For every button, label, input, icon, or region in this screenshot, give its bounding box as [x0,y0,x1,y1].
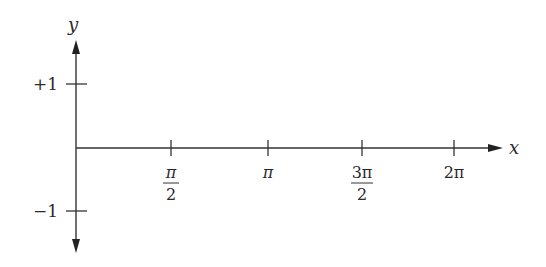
y-axis-down-arrow-icon [72,239,80,253]
axes-svg: y x +1 −1 π 2 π 3π 2 2π [0,0,546,267]
coordinate-diagram: y x +1 −1 π 2 π 3π 2 2π [0,0,546,267]
y-tick-label-plus-one: +1 [33,74,58,94]
x-tick-label-pi-over-2-denominator: 2 [166,185,176,204]
y-axis-up-arrow-icon [72,40,80,54]
y-axis-label: y [67,14,79,35]
x-tick-label-3pi-over-2-denominator: 2 [357,185,367,204]
x-tick-label-2pi: 2π [444,163,465,182]
x-axis-label: x [509,137,519,158]
x-tick-label-3pi-over-2-numerator: 3π [352,163,373,182]
x-tick-label-pi-over-2-numerator: π [165,163,177,182]
y-tick-label-minus-one: −1 [33,201,58,221]
x-axis-right-arrow-icon [488,144,503,152]
x-tick-label-pi: π [262,163,274,182]
